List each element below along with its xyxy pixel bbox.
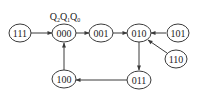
edge-110-010: [148, 40, 167, 53]
svg-text:101: 101: [171, 28, 186, 39]
state-node-100: 100: [52, 70, 76, 88]
state-node-101: 101: [167, 24, 189, 42]
svg-text:110: 110: [169, 54, 184, 65]
svg-text:000: 000: [57, 28, 72, 39]
state-node-110: 110: [165, 50, 187, 68]
state-node-011: 011: [127, 71, 151, 89]
svg-text:010: 010: [132, 28, 147, 39]
svg-text:100: 100: [57, 74, 72, 85]
state-node-010: 010: [127, 24, 151, 42]
state-node-111: 111: [9, 24, 31, 42]
state-diagram: Q2Q1Q0 111 000 001 010 101 110 011 100: [0, 0, 206, 101]
svg-text:111: 111: [13, 28, 27, 39]
state-node-001: 001: [89, 24, 113, 42]
svg-text:011: 011: [132, 75, 147, 86]
svg-text:001: 001: [94, 28, 109, 39]
state-variable-label: Q2Q1Q0: [50, 11, 81, 23]
state-node-000: 000: [52, 24, 76, 42]
